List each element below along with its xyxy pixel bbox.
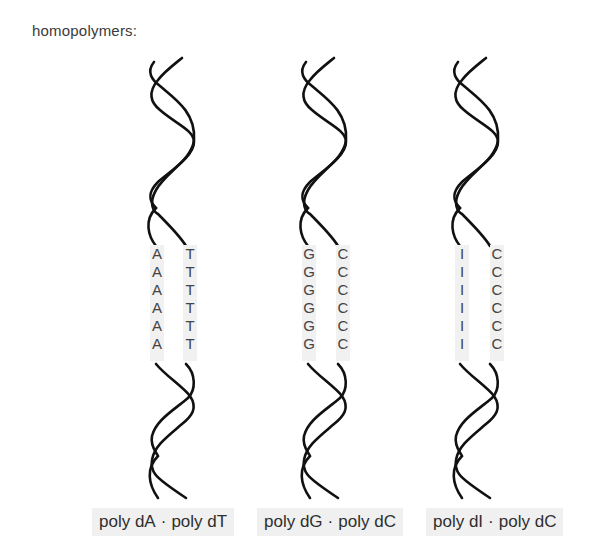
base: I (454, 318, 470, 334)
base: G (301, 282, 317, 298)
base: T (182, 336, 198, 352)
base: I (454, 300, 470, 316)
base: I (454, 264, 470, 280)
base: G (301, 300, 317, 316)
base: C (335, 246, 351, 262)
base: C (335, 264, 351, 280)
base: C (335, 318, 351, 334)
base: C (489, 282, 505, 298)
base: C (489, 300, 505, 316)
base: C (335, 282, 351, 298)
base: C (489, 246, 505, 262)
separator-dot: · (161, 508, 167, 536)
base: C (489, 336, 505, 352)
base: A (149, 336, 165, 352)
base: A (149, 246, 165, 262)
base: A (149, 282, 165, 298)
base: T (182, 282, 198, 298)
base: C (335, 336, 351, 352)
base: G (301, 318, 317, 334)
base: C (335, 300, 351, 316)
base: C (489, 318, 505, 334)
base: T (182, 264, 198, 280)
base: C (489, 264, 505, 280)
base: G (301, 264, 317, 280)
base: T (182, 318, 198, 334)
base: A (149, 300, 165, 316)
base: G (301, 336, 317, 352)
base: I (454, 282, 470, 298)
base: G (301, 246, 317, 262)
base: A (149, 318, 165, 334)
base: T (182, 246, 198, 262)
separator-dot: · (488, 508, 494, 536)
separator-dot: · (328, 508, 334, 536)
duplex-label-2: poly dG·poly dC (257, 508, 403, 536)
base: A (149, 264, 165, 280)
base: I (454, 336, 470, 352)
base: T (182, 300, 198, 316)
duplex-label-1: poly dA·poly dT (92, 508, 234, 536)
duplex-label-3: poly dI·poly dC (426, 508, 563, 536)
base: I (454, 246, 470, 262)
